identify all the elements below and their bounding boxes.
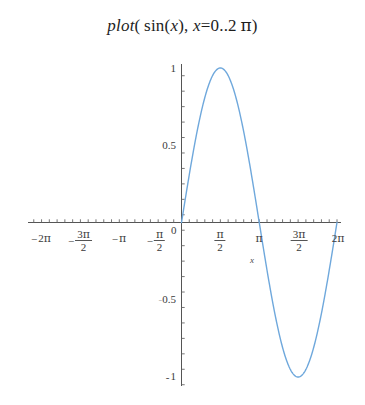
x-tick-denominator-neg-pi-over-2: 2	[154, 241, 165, 253]
x-tick-label-origin: 0	[171, 224, 177, 236]
x-tick-pi-neg-pi-over-2: π	[156, 228, 163, 241]
x-tick-label-3pi-over-2: 3π2	[291, 229, 308, 253]
x-tick-fraction-3pi-over-2: 3π2	[291, 229, 308, 253]
x-tick-label-pi: π	[255, 232, 262, 245]
x-tick-pi-neg-2pi: π	[44, 232, 51, 245]
y-tick-label-1: 1	[160, 62, 176, 74]
x-tick-fraction-neg-3pi-over-2: 3π2	[75, 229, 92, 253]
x-tick-label-neg-2pi: −2π	[31, 232, 51, 245]
x-tick-sign-neg-pi-over-2: −	[147, 235, 154, 247]
x-axis-variable-label: x	[250, 255, 254, 265]
x-tick-fraction-neg-pi-over-2: π2	[154, 229, 165, 253]
x-tick-label-neg-3pi-over-2: −3π2	[68, 229, 92, 253]
y-tick-label-neg-0-5: -0.5	[147, 293, 176, 305]
x-tick-denominator-pi-over-2: 2	[214, 241, 225, 253]
x-tick-pi-2pi: π	[337, 232, 344, 245]
plot-figure: plot( sin(x), x=0..2 π) −2π −3π2 −π −π2 …	[0, 0, 365, 405]
x-tick-fraction-pi-over-2: π2	[214, 229, 225, 253]
x-tick-pi-pi: π	[255, 232, 262, 245]
x-tick-denominator-neg-3pi-over-2: 2	[75, 241, 92, 253]
x-tick-denominator-3pi-over-2: 2	[291, 241, 308, 253]
x-tick-label-2pi: 2π	[332, 232, 345, 245]
x-tick-sign-neg-3pi-over-2: −	[68, 235, 75, 247]
x-tick-label-neg-pi-over-2: −π2	[147, 229, 165, 253]
y-tick-label-0-5: 0.5	[152, 139, 176, 151]
x-tick-pi-pi-over-2: π	[216, 228, 223, 241]
x-tick-label-neg-pi: −π	[112, 232, 126, 245]
x-tick-pi-3pi-over-2: π	[298, 228, 305, 241]
x-tick-pi-neg-pi: π	[119, 232, 126, 245]
x-tick-pi-neg-3pi-over-2: π	[83, 228, 90, 241]
y-tick-value-neg-1: 1	[171, 370, 177, 382]
y-tick-value-neg-0-5: 0.5	[162, 293, 176, 305]
axes-canvas	[0, 0, 365, 405]
y-tick-label-neg-1: -1	[155, 370, 176, 383]
y-axis-tick-marks	[182, 76, 185, 385]
x-tick-label-pi-over-2: π2	[214, 229, 225, 253]
